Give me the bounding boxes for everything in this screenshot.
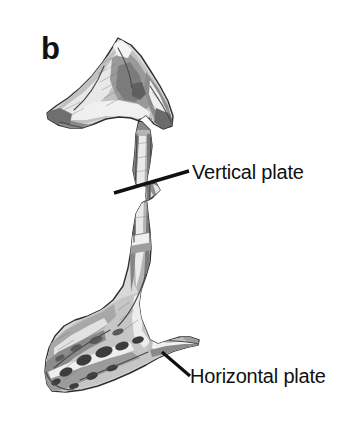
right-process-lower (149, 200, 164, 220)
bone-body (45, 38, 199, 392)
figure-panel-b: b Vertical plate Horizontal plate (0, 0, 356, 444)
callout-label-vertical-plate: Vertical plate (192, 162, 304, 182)
panel-letter: b (41, 33, 59, 64)
callout-label-horizontal-plate: Horizontal plate (190, 366, 326, 386)
leader-line-horizontal-plate (162, 352, 190, 376)
